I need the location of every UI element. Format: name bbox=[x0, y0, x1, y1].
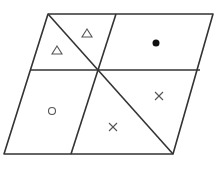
filled-dot-icon bbox=[153, 40, 160, 47]
triangle-icon bbox=[82, 29, 92, 37]
slanted-divider bbox=[71, 14, 116, 154]
diagonal-divider bbox=[48, 14, 173, 154]
circle-icon bbox=[49, 108, 56, 115]
triangle-icon bbox=[52, 46, 62, 54]
parallelogram-diagram bbox=[0, 0, 219, 172]
cross-icon bbox=[155, 92, 163, 100]
cross-icon bbox=[109, 123, 117, 131]
